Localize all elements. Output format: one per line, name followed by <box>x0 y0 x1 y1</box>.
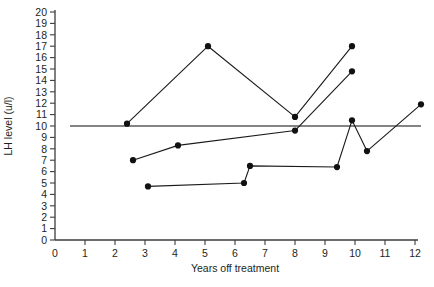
data-point <box>349 43 355 49</box>
y-axis-tick-labels: 01234567891011121314151617181920 <box>35 6 47 246</box>
data-point <box>364 148 370 154</box>
x-axis-tick-labels: 0123456789101112 <box>52 247 421 259</box>
x-tick-label: 5 <box>202 247 208 259</box>
y-tick-label: 13 <box>35 86 47 98</box>
x-tick-label: 3 <box>142 247 148 259</box>
x-axis-title: Years off treatment <box>191 262 279 274</box>
x-tick-label: 6 <box>232 247 238 259</box>
y-tick-label: 2 <box>41 211 47 223</box>
series-patient-2 <box>130 68 355 163</box>
x-tick-label: 7 <box>262 247 268 259</box>
y-tick-label: 6 <box>41 165 47 177</box>
data-point <box>130 157 136 163</box>
data-point <box>418 101 424 107</box>
y-tick-label: 9 <box>41 131 47 143</box>
y-tick-label: 7 <box>41 154 47 166</box>
y-tick-label: 18 <box>35 29 47 41</box>
data-point <box>349 68 355 74</box>
series-path <box>133 71 352 160</box>
data-point <box>349 117 355 123</box>
y-tick-label: 16 <box>35 51 47 63</box>
y-tick-label: 4 <box>41 188 47 200</box>
y-tick-label: 20 <box>35 6 47 18</box>
y-tick-label: 5 <box>41 177 47 189</box>
y-tick-label: 1 <box>41 222 47 234</box>
y-tick-label: 8 <box>41 143 47 155</box>
x-tick-label: 10 <box>349 247 361 259</box>
series-path <box>148 104 421 186</box>
data-point <box>292 114 298 120</box>
y-tick-label: 17 <box>35 40 47 52</box>
x-tick-label: 11 <box>380 247 391 259</box>
data-point <box>205 43 211 49</box>
chart-figure: 01234567891011121314151617181920 0123456… <box>0 0 434 287</box>
y-tick-label: 14 <box>35 74 47 86</box>
x-tick-label: 0 <box>52 247 58 259</box>
x-tick-label: 4 <box>172 247 178 259</box>
y-tick-label: 0 <box>41 234 47 246</box>
data-point <box>145 183 151 189</box>
data-point <box>334 164 340 170</box>
x-axis-tick-marks <box>85 240 415 245</box>
data-series-group <box>124 43 424 189</box>
series-patient-3 <box>145 101 424 189</box>
data-point <box>175 142 181 148</box>
y-tick-label: 15 <box>35 63 47 75</box>
series-patient-1 <box>124 43 355 127</box>
y-tick-label: 11 <box>36 108 47 120</box>
y-tick-label: 12 <box>35 97 47 109</box>
lh-level-line-chart: 01234567891011121314151617181920 0123456… <box>0 0 434 287</box>
data-point <box>292 127 298 133</box>
x-tick-label: 12 <box>409 247 421 259</box>
x-tick-label: 8 <box>292 247 298 259</box>
y-tick-label: 19 <box>35 17 47 29</box>
x-tick-label: 1 <box>82 247 88 259</box>
x-tick-label: 9 <box>322 247 328 259</box>
y-axis-tick-marks <box>50 12 55 240</box>
data-point <box>247 163 253 169</box>
y-axis-title: LH level (u/l) <box>2 97 14 156</box>
x-tick-label: 2 <box>112 247 118 259</box>
data-point <box>241 180 247 186</box>
y-tick-label: 10 <box>35 120 47 132</box>
series-path <box>127 46 352 124</box>
data-point <box>124 121 130 127</box>
y-tick-label: 3 <box>41 200 47 212</box>
